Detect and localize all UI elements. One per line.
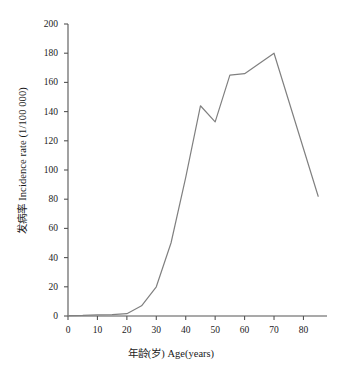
y-tick-label: 140 (32, 107, 58, 117)
y-tick-label: 40 (32, 253, 58, 263)
incidence-rate-line (68, 53, 318, 315)
y-tick-label: 80 (32, 194, 58, 204)
x-tick-label: 80 (293, 325, 313, 335)
y-tick-label: 100 (32, 165, 58, 175)
x-tick-label: 60 (235, 325, 255, 335)
x-tick-marks (68, 316, 303, 320)
x-axis-title: 年龄(岁) Age(years) (0, 345, 342, 360)
x-tick-label: 0 (58, 325, 78, 335)
y-tick-label: 120 (32, 136, 58, 146)
x-tick-label: 40 (176, 325, 196, 335)
axis-lines (68, 24, 327, 316)
y-tick-label: 0 (32, 311, 58, 321)
x-tick-label: 20 (117, 325, 137, 335)
x-tick-label: 30 (146, 325, 166, 335)
x-tick-label: 70 (264, 325, 284, 335)
y-tick-label: 200 (32, 19, 58, 29)
y-tick-marks (64, 24, 68, 316)
x-tick-label: 50 (205, 325, 225, 335)
x-tick-label: 10 (87, 325, 107, 335)
y-tick-label: 20 (32, 282, 58, 292)
y-tick-label: 60 (32, 223, 58, 233)
chart-figure: 发病率 Incidence rate (1/100 000) 020406080… (0, 0, 342, 379)
y-tick-label: 160 (32, 77, 58, 87)
y-tick-label: 180 (32, 48, 58, 58)
x-axis-title-text: 年龄(岁) Age(years) (128, 348, 214, 359)
